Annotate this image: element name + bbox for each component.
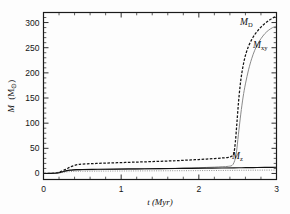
y-tick-label: 0 xyxy=(35,168,40,178)
y-axis-label: M (M⊙) xyxy=(6,80,17,114)
curve-label-md-subscript: D xyxy=(248,21,253,28)
svg-text:Mz: Mz xyxy=(231,151,243,162)
curve-m-xy xyxy=(44,26,277,173)
curve-mz-secondary xyxy=(44,170,277,173)
curve-label-md: MD xyxy=(239,17,253,28)
x-tick-label: 2 xyxy=(196,184,201,194)
figure-panel: 0123050100150200250300 t (Myr) M (M⊙) MD… xyxy=(0,0,290,214)
y-tick-label: 250 xyxy=(25,43,39,53)
y-axis-label-unit-open: (M xyxy=(6,89,16,100)
curve-label-mxy-subscript: xy xyxy=(261,44,268,51)
curve-label-mz-subscript: z xyxy=(240,155,243,162)
x-axis-label: t (Myr) xyxy=(147,197,173,207)
svg-text:Mxy: Mxy xyxy=(252,40,268,51)
y-axis-label-symbol: M xyxy=(6,104,16,113)
x-tick-label: 1 xyxy=(119,184,124,194)
svg-text:MD: MD xyxy=(239,17,253,28)
y-tick-label: 200 xyxy=(25,68,39,78)
y-tick-label: 150 xyxy=(25,93,39,103)
curve-label-mxy: Mxy xyxy=(252,40,268,51)
y-tick-label: 100 xyxy=(25,118,39,128)
svg-text:M (M⊙): M (M⊙) xyxy=(6,80,17,114)
mass-growth-chart: 0123050100150200250300 t (Myr) M (M⊙) MD… xyxy=(0,0,290,214)
curve-label-mz: Mz xyxy=(231,151,243,162)
x-tick-label: 3 xyxy=(274,184,279,194)
curve-m-d xyxy=(44,17,277,174)
y-axis-label-unit-close: ) xyxy=(6,80,16,83)
axis-tick-labels: 0123050100150200250300 xyxy=(25,18,279,194)
data-curves xyxy=(44,17,277,174)
y-tick-label: 300 xyxy=(25,18,39,28)
y-tick-label: 50 xyxy=(30,143,40,153)
x-tick-label: 0 xyxy=(41,184,46,194)
